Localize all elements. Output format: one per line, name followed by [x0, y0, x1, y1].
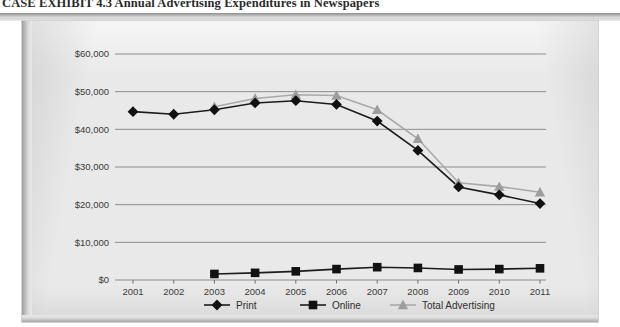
x-axis-tick-label: 2001 — [122, 286, 143, 297]
y-axis-tick-label: $10,000 — [75, 237, 109, 248]
gridlines-group — [115, 54, 546, 280]
y-axis-tick-label: $30,000 — [75, 161, 109, 172]
data-point-square — [495, 265, 504, 274]
data-point-square — [454, 265, 463, 274]
legend-item-label: Print — [236, 300, 257, 311]
y-axis-tick-label: $20,000 — [75, 199, 109, 210]
x-axis-tick-label: 2004 — [245, 286, 266, 297]
data-point-diamond — [372, 116, 383, 127]
data-point-triangle — [413, 134, 423, 143]
y-axis-tick-label: $50,000 — [75, 86, 109, 97]
series-line — [133, 101, 540, 204]
data-point-diamond — [494, 189, 505, 200]
data-point-diamond — [535, 198, 546, 209]
data-point-square — [414, 264, 423, 273]
chart-legend: PrintOnlineTotal Advertising — [204, 300, 495, 311]
x-axis-tick-label: 2006 — [326, 286, 347, 297]
x-axis-tick-label: 2010 — [489, 286, 510, 297]
x-axis-tick-label: 2008 — [407, 286, 428, 297]
data-point-diamond — [128, 106, 139, 117]
y-axis-tick-label: $40,000 — [75, 124, 109, 135]
chart-plate: $0$10,000$20,000$30,000$40,000$50,000$60… — [22, 21, 598, 322]
line-chart: $0$10,000$20,000$30,000$40,000$50,000$60… — [22, 21, 598, 322]
data-point-square — [309, 301, 318, 310]
legend-item-label: Total Advertising — [422, 300, 495, 311]
data-point-square — [210, 270, 219, 279]
x-axis-tick-labels: 2001200220032004200520062007200820092010… — [122, 286, 550, 297]
data-point-diamond — [168, 109, 179, 120]
data-point-square — [373, 263, 382, 272]
y-axis-tick-label: $60,000 — [75, 48, 109, 59]
series-markers-group — [128, 89, 546, 278]
x-axis-tick-marks — [133, 280, 540, 284]
x-axis-tick-label: 2005 — [285, 286, 306, 297]
y-axis-tick-labels: $0$10,000$20,000$30,000$40,000$50,000$60… — [75, 48, 109, 285]
y-axis-tick-label: $0 — [98, 274, 109, 285]
x-axis-tick-label: 2009 — [448, 286, 469, 297]
data-point-square — [536, 264, 545, 273]
data-point-diamond — [331, 99, 342, 110]
x-axis-tick-label: 2002 — [163, 286, 184, 297]
data-point-square — [332, 265, 341, 274]
x-axis-tick-label: 2003 — [204, 286, 225, 297]
data-point-square — [292, 267, 301, 276]
legend-item-label: Online — [332, 300, 361, 311]
data-point-diamond — [212, 300, 223, 311]
x-axis-tick-label: 2007 — [367, 286, 388, 297]
data-point-square — [251, 269, 260, 278]
figure-caption: CASE EXHIBIT 4.3 Annual Advertising Expe… — [2, 0, 618, 10]
x-axis-tick-label: 2011 — [530, 286, 550, 297]
series-lines-group — [133, 95, 540, 274]
